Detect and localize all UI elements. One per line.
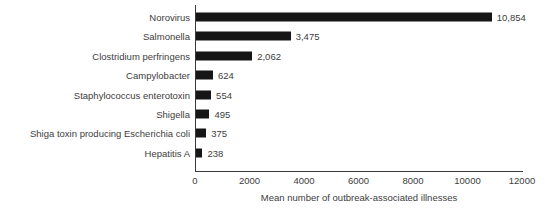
bar-with-value: 554 — [196, 90, 232, 99]
bar — [196, 51, 252, 60]
bar-with-value: 495 — [196, 109, 230, 118]
category-label: Salmonella — [143, 31, 195, 42]
x-axis-title: Mean number of outbreak-associated illne… — [195, 192, 523, 204]
bar-with-value: 375 — [196, 129, 227, 138]
bar-row: Salmonella3,475 — [0, 27, 557, 46]
bar-value-label: 495 — [214, 108, 230, 119]
category-label: Shiga toxin producing Escherichia coli — [30, 128, 195, 139]
bar — [196, 13, 492, 22]
bar-with-value: 2,062 — [196, 51, 281, 60]
bar-row: Staphylococcus enterotoxin554 — [0, 85, 557, 104]
bar-chart: Norovirus10,854Salmonella3,475Clostridiu… — [0, 0, 557, 215]
bar-value-label: 2,062 — [257, 50, 281, 61]
category-label: Shigella — [156, 108, 195, 119]
bar — [196, 148, 202, 157]
bar-value-label: 10,854 — [497, 12, 526, 23]
category-label: Hepatitis A — [145, 147, 195, 158]
x-tick-label: 0 — [192, 174, 197, 187]
x-tick-label: 12000 — [509, 174, 535, 187]
category-label: Staphylococcus enterotoxin — [74, 89, 195, 100]
bar-value-label: 375 — [211, 128, 227, 139]
bar-value-label: 554 — [216, 89, 232, 100]
category-label: Campylobacter — [126, 70, 195, 81]
x-axis-line — [195, 171, 523, 172]
x-tick-label: 4000 — [293, 174, 314, 187]
x-tick-label: 10000 — [454, 174, 480, 187]
bar-row: Hepatitis A238 — [0, 143, 557, 162]
bar-with-value: 238 — [196, 148, 223, 157]
x-tick-label: 6000 — [348, 174, 369, 187]
x-tick-label: 8000 — [402, 174, 423, 187]
category-label: Clostridium perfringens — [92, 50, 195, 61]
bar — [196, 109, 209, 118]
bar-row: Shiga toxin producing Escherichia coli37… — [0, 124, 557, 143]
bar-value-label: 238 — [207, 147, 223, 158]
bar-row: Norovirus10,854 — [0, 8, 557, 27]
bar-value-label: 624 — [218, 70, 234, 81]
x-axis-tick-labels: 020004000600080001000012000 — [0, 174, 557, 188]
bar — [196, 90, 211, 99]
bar-row: Campylobacter624 — [0, 66, 557, 85]
bar-row: Clostridium perfringens2,062 — [0, 46, 557, 65]
bar — [196, 71, 213, 80]
plot-area: Norovirus10,854Salmonella3,475Clostridiu… — [0, 0, 557, 215]
bar — [196, 32, 291, 41]
x-tick-label: 2000 — [239, 174, 260, 187]
category-label: Norovirus — [149, 12, 195, 23]
bar-with-value: 10,854 — [196, 13, 526, 22]
bar-with-value: 624 — [196, 71, 234, 80]
bar-row: Shigella495 — [0, 104, 557, 123]
bar — [196, 129, 206, 138]
bar-with-value: 3,475 — [196, 32, 319, 41]
bar-value-label: 3,475 — [296, 31, 320, 42]
